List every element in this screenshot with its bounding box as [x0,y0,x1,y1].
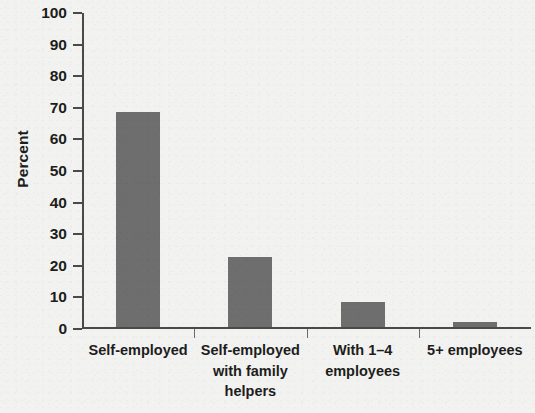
y-tick-label-70: 70 [50,99,67,117]
y-tick-10: 10 [73,296,82,298]
y-tick-label-90: 90 [50,36,67,54]
y-axis-title: Percent [14,119,32,199]
x-axis-label-line: with family [187,361,313,382]
y-tick-20: 20 [73,265,82,267]
y-tick-50: 50 [73,170,82,172]
bar-3 [453,322,497,327]
plot-area: 0102030405060708090100 [82,13,531,329]
x-axis-label-line: helpers [187,381,313,402]
x-axis-label-line: 5+ employees [412,340,535,361]
x-axis-label-3: 5+ employees [412,340,535,361]
bar-0 [116,112,160,327]
y-tick-label-10: 10 [50,288,67,306]
y-tick-60: 60 [73,138,82,140]
y-tick-label-100: 100 [41,4,67,22]
x-axis-label-2: With 1–4employees [300,340,426,381]
y-tick-40: 40 [73,202,82,204]
y-tick-label-30: 30 [50,225,67,243]
y-tick-0: 0 [73,328,82,330]
x-axis-label-line: Self-employed [75,340,201,361]
bar-1 [228,257,272,327]
y-tick-70: 70 [73,107,82,109]
y-tick-label-50: 50 [50,162,67,180]
y-tick-80: 80 [73,75,82,77]
y-axis-line [82,13,84,329]
x-axis-label-line: With 1–4 [300,340,426,361]
bar-2 [341,302,385,327]
x-axis-label-line: employees [300,361,426,382]
x-axis-label-line: Self-employed [187,340,313,361]
y-tick-100: 100 [73,12,82,14]
y-tick-label-0: 0 [58,320,67,338]
x-axis-label-0: Self-employed [75,340,201,361]
y-tick-label-40: 40 [50,194,67,212]
x-axis-category-labels: Self-employedSelf-employedwith familyhel… [82,340,535,413]
y-tick-30: 30 [73,233,82,235]
y-tick-label-80: 80 [50,67,67,85]
x-tick-separator-1 [194,329,195,338]
x-axis-label-1: Self-employedwith familyhelpers [187,340,313,402]
x-tick-separator-2 [307,329,308,338]
y-tick-90: 90 [73,44,82,46]
bar-chart-figure: Percent 0102030405060708090100 Self-empl… [0,0,535,413]
y-tick-label-60: 60 [50,130,67,148]
x-tick-separator-3 [419,329,420,338]
y-tick-label-20: 20 [50,257,67,275]
